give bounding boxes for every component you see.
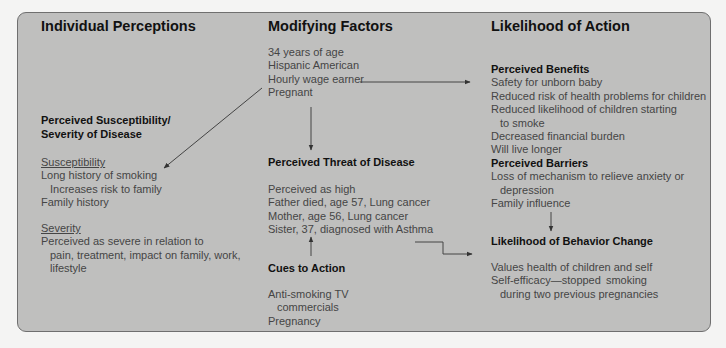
benefit-item: to smoke bbox=[491, 117, 706, 130]
individual-perceptions-title: Individual Perceptions bbox=[41, 18, 196, 34]
susceptibility-item: Increases risk to family bbox=[41, 183, 162, 196]
threat-item: Sister, 37, diagnosed with Asthma bbox=[268, 223, 433, 236]
demographics-block: 34 years of age Hispanic American Hourly… bbox=[268, 46, 364, 100]
cue-item: commercials bbox=[268, 301, 349, 314]
behavior-block: Values health of children and self Self-… bbox=[491, 261, 658, 301]
demographic-item: Hispanic American bbox=[268, 59, 364, 72]
barrier-item: Loss of mechanism to relieve anxiety or bbox=[491, 170, 706, 183]
severity-label: Severity bbox=[41, 222, 241, 235]
demographic-item: Hourly wage earner bbox=[268, 73, 364, 86]
susceptibility-block: Susceptibility Long history of smoking I… bbox=[41, 156, 162, 210]
behavior-item: during two previous pregnancies bbox=[491, 288, 658, 301]
threat-item: Perceived as high bbox=[268, 183, 433, 196]
behavior-item: Values health of children and self bbox=[491, 261, 658, 274]
cues-block: Anti-smoking TV commercials Pregnancy bbox=[268, 288, 349, 328]
susceptibility-item: Family history bbox=[41, 196, 162, 209]
threat-item: Mother, age 56, Lung cancer bbox=[268, 210, 433, 223]
perceived-barriers-title: Perceived Barriers bbox=[491, 157, 706, 170]
perceived-benefits-title: Perceived Benefits bbox=[491, 63, 706, 76]
perceived-susceptibility-title-line2: Severity of Disease bbox=[41, 127, 171, 141]
benefit-item: Reduced likelihood of children starting bbox=[491, 103, 706, 116]
behavior-item: Self-efficacy—stopped smoking bbox=[491, 274, 658, 287]
barrier-item: depression bbox=[491, 184, 706, 197]
benefit-item: Will live longer bbox=[491, 143, 706, 156]
cue-item: Pregnancy bbox=[268, 315, 349, 328]
benefits-block: Perceived Benefits Safety for unborn bab… bbox=[491, 63, 706, 210]
benefit-item: Safety for unborn baby bbox=[491, 76, 706, 89]
modifying-factors-title: Modifying Factors bbox=[268, 18, 393, 34]
severity-item: Perceived as severe in relation to bbox=[41, 235, 241, 248]
severity-item: lifestyle bbox=[41, 262, 241, 275]
cue-item: Anti-smoking TV bbox=[268, 288, 349, 301]
perceived-threat-title: Perceived Threat of Disease bbox=[268, 155, 415, 169]
cues-to-action-title: Cues to Action bbox=[268, 261, 345, 275]
susceptibility-label: Susceptibility bbox=[41, 156, 162, 169]
severity-block: Severity Perceived as severe in relation… bbox=[41, 222, 241, 276]
likelihood-of-action-title: Likelihood of Action bbox=[491, 18, 630, 34]
demographic-item: Pregnant bbox=[268, 86, 364, 99]
barrier-item: Family influence bbox=[491, 197, 706, 210]
threat-block: Perceived as high Father died, age 57, L… bbox=[268, 183, 433, 237]
behavior-change-title: Likelihood of Behavior Change bbox=[491, 234, 653, 248]
benefit-item: Decreased financial burden bbox=[491, 130, 706, 143]
threat-item: Father died, age 57, Lung cancer bbox=[268, 196, 433, 209]
perceived-susceptibility-title: Perceived Susceptibility/ Severity of Di… bbox=[41, 113, 171, 141]
perceived-susceptibility-title-line1: Perceived Susceptibility/ bbox=[41, 113, 171, 127]
susceptibility-item: Long history of smoking bbox=[41, 169, 162, 182]
severity-item: pain, treatment, impact on family, work, bbox=[41, 249, 241, 262]
benefit-item: Reduced risk of health problems for chil… bbox=[491, 90, 706, 103]
demographic-item: 34 years of age bbox=[268, 46, 364, 59]
